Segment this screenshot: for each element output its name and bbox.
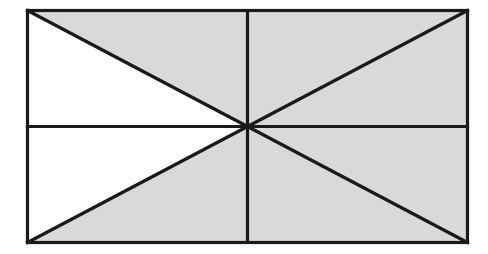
figure-lines-group <box>28 11 468 243</box>
geometric-figure-canvas <box>0 0 488 254</box>
